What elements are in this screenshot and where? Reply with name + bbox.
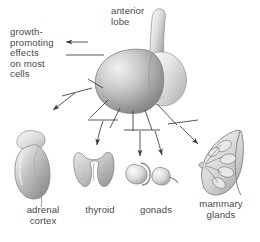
label-anterior-lobe: anterior lobe [111,6,144,27]
nipple [199,162,204,168]
ovary-body [152,167,170,185]
label-thyroid: thyroid [73,205,127,216]
label-gonads: gonads [129,205,183,216]
label-mammary-glands: mammary glands [192,199,250,220]
label-adrenal-cortex: adrenal cortex [15,205,71,226]
label-growth-promoting-effects: growth- promoting effects on most cells [10,27,54,80]
